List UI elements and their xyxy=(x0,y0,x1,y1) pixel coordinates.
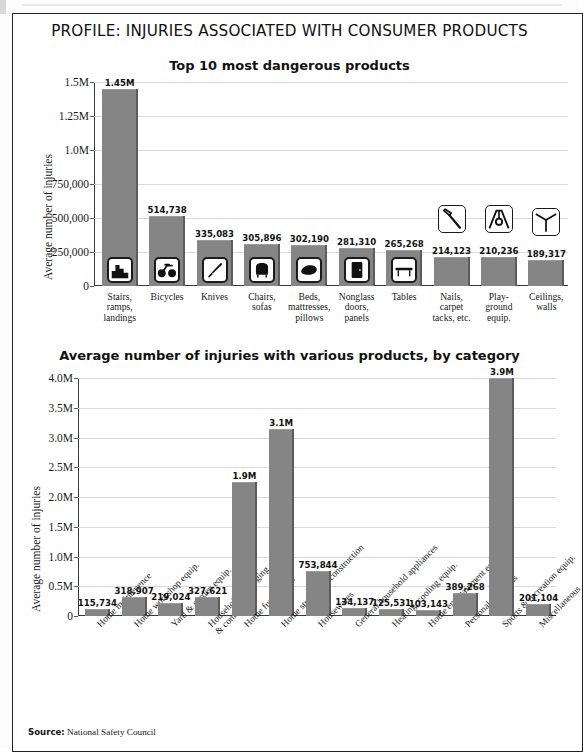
chart2-gridline xyxy=(78,378,556,379)
chart2-bar-value: 1.9M xyxy=(233,471,257,481)
chart2-plot-area: 4.0M3.5M3.0M2.5M2.0M1.5M1.0M0.5M0115,734… xyxy=(78,378,556,616)
chart2-y-tickmark xyxy=(74,378,78,379)
chart2-y-tick: 1.5M xyxy=(48,521,73,533)
source-label: Source: xyxy=(28,727,65,737)
chart2-y-tick: 0 xyxy=(67,610,73,622)
chart2-gridline xyxy=(78,438,556,439)
source-note: Source: National Safety Council xyxy=(28,727,156,737)
chart2-y-tick: 2.5M xyxy=(48,461,73,473)
chart2-bar-value: 219,024 xyxy=(151,592,190,602)
chart2-y-tickmark xyxy=(74,497,78,498)
chart2-y-tick: 0.5M xyxy=(48,580,73,592)
source-text: National Safety Council xyxy=(67,727,156,737)
chart2-y-tick: 1.0M xyxy=(48,551,73,563)
chart2-bar-value: 327,621 xyxy=(188,586,227,596)
chart2-gridline xyxy=(78,497,556,498)
chart2-y-tickmark xyxy=(74,467,78,468)
chart2-gridline xyxy=(78,467,556,468)
chart2-bar-value: 201,104 xyxy=(519,593,558,603)
chart2-y-tick: 2.0M xyxy=(48,491,73,503)
chart2-bar-value: 389,268 xyxy=(445,582,484,592)
chart2-gridline xyxy=(78,527,556,528)
chart2-y-tickmark xyxy=(74,408,78,409)
chart2-y-tickmark xyxy=(74,616,78,617)
chart2-bar-value: 3.9M xyxy=(490,367,514,377)
chart2-bar-value: 753,844 xyxy=(298,560,337,570)
chart2-y-tick: 3.5M xyxy=(48,402,73,414)
chart2-bar-value: 318,907 xyxy=(115,586,154,596)
chart2-bar xyxy=(489,378,514,616)
chart2-y-tickmark xyxy=(74,586,78,587)
chart2-y-tick: 3.0M xyxy=(48,432,73,444)
chart2-y-tick: 4.0M xyxy=(48,372,73,384)
chart2-bar-value: 3.1M xyxy=(269,418,293,428)
chart2-bar xyxy=(269,429,294,616)
chart2-gridline xyxy=(78,408,556,409)
chart2-y-axis-label: Average number of injuries xyxy=(30,486,42,612)
chart2-gridline xyxy=(78,557,556,558)
chart2-y-tickmark xyxy=(74,438,78,439)
chart2-y-tickmark xyxy=(74,527,78,528)
chart2-y-tickmark xyxy=(74,557,78,558)
chart2-bar xyxy=(232,482,257,616)
chart-injuries-by-category: Average number of injuries 4.0M3.5M3.0M2… xyxy=(0,0,579,370)
